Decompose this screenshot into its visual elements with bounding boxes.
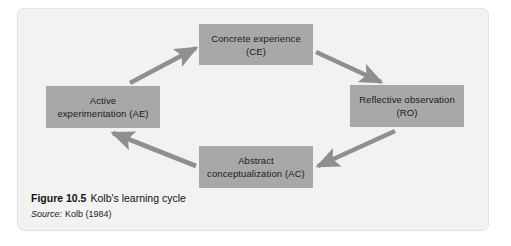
node-ae-line-2: experimentation (AE) (57, 107, 148, 120)
arrow-ae-to-ce (130, 48, 196, 83)
arrow-ac-to-ae (113, 133, 196, 166)
node-active-experimentation: Active experimentation (AE) (46, 86, 160, 128)
node-reflective-observation: Reflective observation (RO) (350, 85, 464, 127)
arrow-ce-to-ro (316, 52, 381, 82)
node-ac-line-1: Abstract (207, 154, 305, 167)
node-ce-line-2: (CE) (211, 45, 301, 58)
node-abstract-conceptualization: Abstract conceptualization (AC) (199, 146, 313, 188)
caption-source-text: Kolb (1984) (65, 209, 112, 219)
caption-source-label: Source: (31, 209, 62, 219)
figure-container: Concrete experience (CE) Reflective obse… (0, 0, 511, 246)
node-ro-line-1: Reflective observation (359, 93, 455, 106)
node-ce-line-1: Concrete experience (211, 32, 301, 45)
caption-title-line: Figure 10.5Kolb's learning cycle (31, 191, 186, 206)
node-ac-line-2: conceptualization (AC) (207, 167, 305, 180)
node-ro-line-2: (RO) (359, 106, 455, 119)
caption-figure-number: Figure 10.5 (31, 192, 86, 204)
caption-source-line: Source:Kolb (1984) (31, 207, 186, 221)
figure-caption: Figure 10.5Kolb's learning cycle Source:… (31, 191, 186, 221)
node-concrete-experience: Concrete experience (CE) (199, 24, 313, 65)
node-ae-line-1: Active (57, 94, 148, 107)
arrow-ro-to-ac (318, 131, 395, 166)
caption-title-text: Kolb's learning cycle (90, 192, 185, 204)
